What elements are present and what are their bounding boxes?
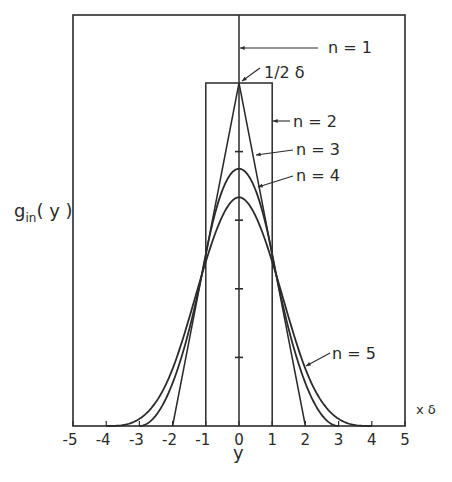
arrow-n3 bbox=[256, 150, 293, 155]
x-tick-label: -1 bbox=[195, 431, 210, 449]
arrow-n4 bbox=[258, 176, 293, 187]
annotation-n4: n = 4 bbox=[296, 166, 340, 185]
x-tick-label: 3 bbox=[334, 431, 344, 449]
plot-canvas bbox=[0, 0, 452, 482]
annotation-n3: n = 3 bbox=[296, 140, 340, 159]
plot-curves bbox=[106, 15, 372, 426]
x-tick-label: -3 bbox=[129, 431, 144, 449]
y-axis-label: gin( y ) bbox=[14, 200, 73, 225]
x-tick-label: -4 bbox=[96, 431, 111, 449]
annotation-n5: n = 5 bbox=[332, 344, 376, 363]
x-axis-label: y bbox=[233, 442, 244, 463]
arrowhead bbox=[240, 46, 245, 50]
x-tick-label: 5 bbox=[400, 431, 410, 449]
x-tick-label: 2 bbox=[301, 431, 311, 449]
x-unit-label: x δ bbox=[416, 402, 436, 417]
arrowhead bbox=[273, 119, 278, 123]
x-tick-label: 4 bbox=[367, 431, 377, 449]
x-tick-label: -2 bbox=[162, 431, 177, 449]
x-tick-label: 1 bbox=[267, 431, 277, 449]
annotation-n1: n = 1 bbox=[328, 38, 372, 57]
x-tick-label: -5 bbox=[63, 431, 78, 449]
annotation-peak: 1/2 δ bbox=[264, 63, 305, 82]
annotation-n2: n = 2 bbox=[293, 112, 337, 131]
